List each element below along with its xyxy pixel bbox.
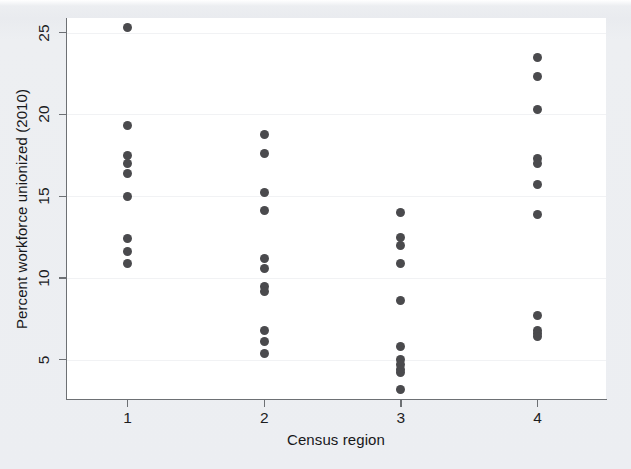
- gridline-y-25: [67, 33, 606, 34]
- y-tick-mark-25: [59, 32, 66, 33]
- y-tick-label-15: 15: [33, 185, 55, 207]
- x-tick-label-3: 3: [386, 409, 416, 427]
- x-tick-mark-2: [264, 400, 265, 407]
- scatter-plot: 510152025 1234 Percent workforce unioniz…: [0, 0, 631, 469]
- data-point: [123, 192, 132, 201]
- x-tick-mark-3: [400, 400, 401, 407]
- x-tick-mark-1: [127, 400, 128, 407]
- y-tick-mark-20: [59, 114, 66, 115]
- x-tick-label-2: 2: [249, 409, 279, 427]
- x-axis-line: [66, 399, 607, 400]
- gridline-y-5: [67, 360, 606, 361]
- y-axis-title: Percent workforce unionized (2010): [10, 18, 32, 399]
- x-tick-label-4: 4: [523, 409, 553, 427]
- data-point: [260, 337, 269, 346]
- y-tick-label-25: 25: [33, 22, 55, 44]
- data-point: [260, 254, 269, 263]
- y-tick-mark-15: [59, 196, 66, 197]
- y-axis-title-text: Percent workforce unionized (2010): [13, 88, 30, 328]
- data-point: [260, 130, 269, 139]
- data-point: [260, 264, 269, 273]
- gridline-y-15: [67, 196, 606, 197]
- gridline-y-10: [67, 278, 606, 279]
- data-point: [123, 259, 132, 268]
- y-tick-label-20: 20: [33, 103, 55, 125]
- y-tick-label-10: 10: [33, 267, 55, 289]
- x-tick-label-1: 1: [113, 409, 143, 427]
- gridline-y-20: [67, 114, 606, 115]
- chart-screenshot: 510152025 1234 Percent workforce unioniz…: [0, 0, 631, 469]
- y-tick-mark-10: [59, 277, 66, 278]
- data-point: [260, 326, 269, 335]
- data-point: [123, 169, 132, 178]
- y-tick-label-5: 5: [33, 349, 55, 371]
- y-axis-line: [66, 18, 67, 400]
- data-point: [533, 53, 542, 62]
- plot-area: [66, 18, 606, 399]
- data-point: [260, 349, 269, 358]
- data-point: [123, 159, 132, 168]
- data-point: [533, 210, 542, 219]
- x-tick-mark-4: [537, 400, 538, 407]
- x-axis-title: Census region: [66, 431, 606, 448]
- y-tick-mark-5: [59, 359, 66, 360]
- data-point: [260, 287, 269, 296]
- data-point: [260, 149, 269, 158]
